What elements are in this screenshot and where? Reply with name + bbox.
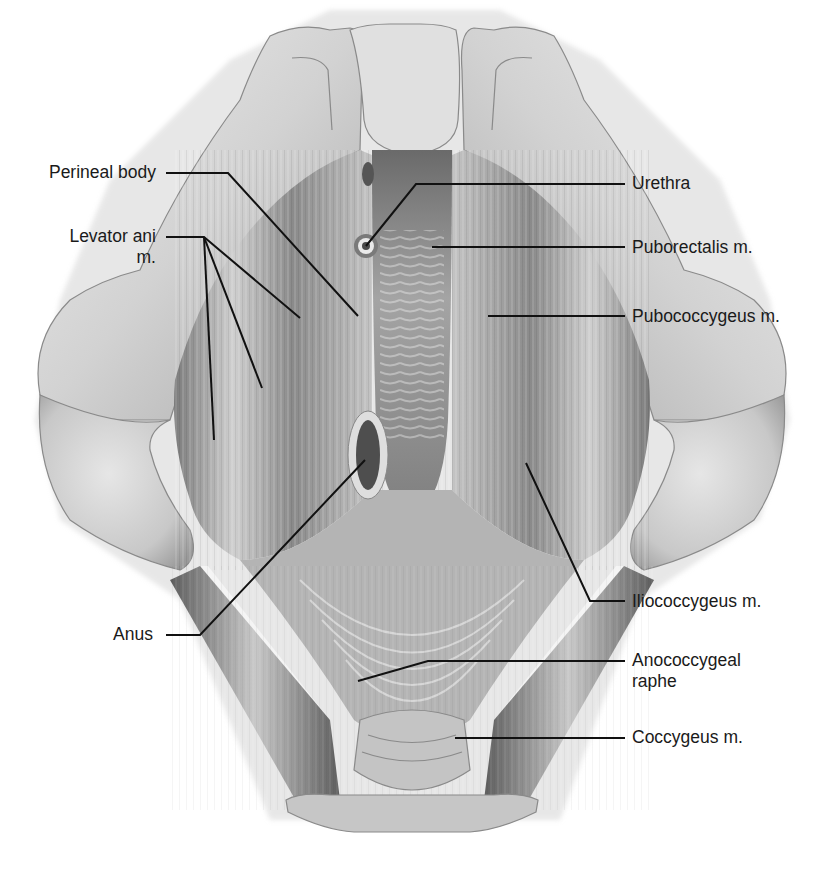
label-perineal-body: Perineal body	[49, 162, 156, 183]
label-coccygeus: Coccygeus m.	[632, 727, 743, 748]
label-urethra: Urethra	[632, 173, 690, 194]
upper-opening	[362, 162, 374, 186]
label-levator-ani: Levator ani m.	[69, 226, 156, 268]
perineal-body-rings	[380, 230, 444, 440]
label-anococcygeal-line2: raphe	[632, 671, 741, 692]
label-levator-ani-line2: m.	[69, 247, 156, 268]
label-iliococcygeus: Iliococcygeus m.	[632, 591, 761, 612]
label-anus: Anus	[113, 624, 153, 645]
sacrum-base	[286, 794, 538, 832]
label-puborectalis: Puborectalis m.	[632, 237, 753, 258]
label-anococcygeal-raphe: Anococcygeal raphe	[632, 650, 741, 692]
label-levator-ani-line1: Levator ani	[69, 226, 156, 247]
label-pubococcygeus: Pubococcygeus m.	[632, 306, 780, 327]
anus-opening	[348, 411, 388, 499]
coccyx	[354, 710, 470, 790]
label-anococcygeal-line1: Anococcygeal	[632, 650, 741, 671]
